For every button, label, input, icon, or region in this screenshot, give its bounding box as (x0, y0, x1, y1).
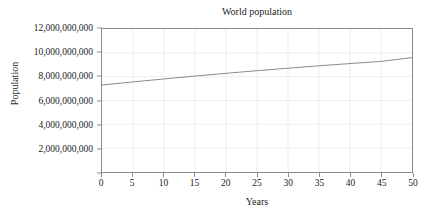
y-tick-label: 4,000,000,000 (38, 120, 93, 130)
x-tick-label: 20 (221, 178, 231, 188)
x-tick-mark (381, 173, 382, 177)
plot-area (101, 28, 413, 173)
data-series-line (102, 29, 412, 172)
x-tick-label: 10 (159, 178, 169, 188)
x-tick-mark (194, 173, 195, 177)
x-tick-mark (132, 173, 133, 177)
y-tick-label: 6,000,000,000 (38, 96, 93, 106)
x-tick-label: 40 (346, 178, 356, 188)
x-tick-label: 50 (408, 178, 418, 188)
x-tick-label: 25 (252, 178, 262, 188)
y-tick-label: 2,000,000,000 (38, 144, 93, 154)
y-tick-label: 12,000,000,000 (34, 23, 93, 33)
x-tick-mark (319, 173, 320, 177)
chart-figure: World population Population 2,000,000,00… (0, 0, 433, 220)
x-tick-mark (225, 173, 226, 177)
y-tick-label: 10,000,000,000 (34, 47, 93, 57)
x-tick-mark (163, 173, 164, 177)
x-tick-label: 35 (315, 178, 325, 188)
x-tick-mark (101, 173, 102, 177)
x-tick-label: 15 (190, 178, 200, 188)
x-tick-label: 0 (99, 178, 104, 188)
x-tick-mark (413, 173, 414, 177)
y-axis-tick-labels: 2,000,000,0004,000,000,0006,000,000,0008… (0, 28, 93, 173)
x-tick-label: 30 (283, 178, 293, 188)
y-tick-label: 8,000,000,000 (38, 71, 93, 81)
x-tick-mark (257, 173, 258, 177)
x-axis-label: Years (101, 196, 413, 207)
x-tick-label: 5 (130, 178, 135, 188)
x-tick-mark (288, 173, 289, 177)
x-tick-mark (350, 173, 351, 177)
chart-title: World population (101, 6, 413, 17)
x-axis-tick-labels: 05101520253035404550 (101, 178, 413, 194)
x-tick-label: 45 (377, 178, 387, 188)
